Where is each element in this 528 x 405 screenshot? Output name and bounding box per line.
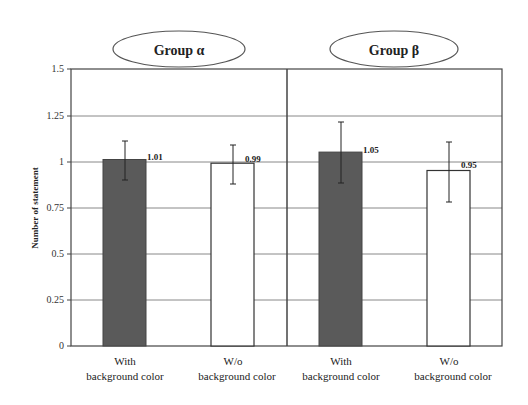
x-label-beta-with-line2: background color xyxy=(302,370,380,382)
value-label-beta-without: 0.95 xyxy=(461,160,477,170)
y-tick-0.75: 0.75 xyxy=(47,202,65,213)
y-tick-1.25: 1.25 xyxy=(47,110,65,121)
bar-alpha-with xyxy=(103,160,146,347)
y-tick-1: 1 xyxy=(59,156,64,167)
group-beta-title: Group β xyxy=(369,43,419,58)
bar-chart: 0 0.25 0.5 0.75 1 1.25 1.5 Number of sta… xyxy=(0,0,528,405)
x-label-alpha-without-line2: background color xyxy=(198,370,276,382)
bar-alpha-without xyxy=(211,163,254,346)
y-tick-0.5: 0.5 xyxy=(52,248,65,259)
y-tick-0.25: 0.25 xyxy=(47,294,65,305)
value-label-beta-with: 1.05 xyxy=(363,145,379,155)
x-label-beta-without-line1: W/o xyxy=(440,355,459,367)
x-label-alpha-with-line1: With xyxy=(114,355,136,367)
x-label-beta-with-line1: With xyxy=(330,355,352,367)
y-axis-label: Number of statement xyxy=(30,167,40,248)
group-alpha-title: Group α xyxy=(154,43,205,58)
x-label-alpha-without-line1: W/o xyxy=(224,355,243,367)
value-label-alpha-with: 1.01 xyxy=(147,152,163,162)
x-label-beta-without-line2: background color xyxy=(414,370,492,382)
y-tick-0: 0 xyxy=(59,340,64,351)
x-label-alpha-with-line2: background color xyxy=(86,370,164,382)
value-label-alpha-without: 0.99 xyxy=(245,154,261,164)
y-tick-1.5: 1.5 xyxy=(52,63,65,74)
